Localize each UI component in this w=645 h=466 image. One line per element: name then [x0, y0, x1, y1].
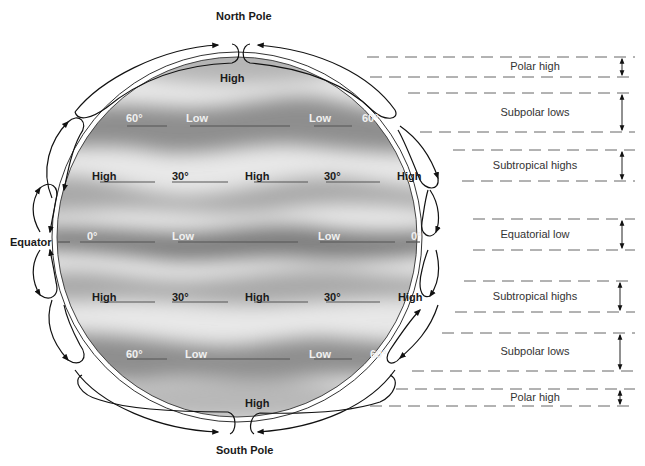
high-30n-mid: High — [245, 170, 269, 182]
belt-extent-arrows — [620, 59, 622, 404]
pressure-belts-diagram: North Pole South Pole Equator High High … — [0, 0, 645, 466]
lat-30s-2: 30° — [324, 291, 341, 303]
high-30n-left: High — [92, 170, 116, 182]
north-pole-label: North Pole — [216, 10, 272, 22]
low-eq-2: Low — [318, 230, 340, 242]
low-60n-1: Low — [186, 112, 208, 124]
lat-60n-right: 60° — [362, 112, 379, 124]
south-polar-high-label: High — [245, 397, 269, 409]
low-60s-1: Low — [185, 348, 207, 360]
low-eq-1: Low — [172, 230, 194, 242]
high-30s-mid: High — [245, 291, 269, 303]
lat-60n-left: 60° — [126, 112, 143, 124]
belt-subpolar-lows-north: Subpolar lows — [460, 106, 610, 118]
lat-30n-2: 30° — [324, 170, 341, 182]
lat-60s-left: 60° — [126, 348, 143, 360]
north-polar-high-label: High — [220, 72, 244, 84]
low-60n-2: Low — [309, 112, 331, 124]
belt-subtropical-highs-north: Subtropical highs — [460, 159, 610, 171]
belt-polar-high-south: Polar high — [460, 391, 610, 403]
lat-0-left: 0° — [87, 230, 98, 242]
globe — [40, 40, 440, 430]
high-30s-left: High — [92, 291, 116, 303]
belt-polar-high-north: Polar high — [460, 60, 610, 72]
lat-60s-right: 60° — [370, 348, 387, 360]
low-60s-2: Low — [309, 348, 331, 360]
lat-0-right: 0° — [411, 230, 422, 242]
high-30s-right: High — [398, 291, 422, 303]
belt-subtropical-highs-south: Subtropical highs — [460, 290, 610, 302]
belt-subpolar-lows-south: Subpolar lows — [460, 345, 610, 357]
lat-30s-1: 30° — [172, 291, 189, 303]
high-30n-right: High — [397, 170, 421, 182]
belt-equatorial-low: Equatorial low — [460, 228, 610, 240]
south-pole-label: South Pole — [216, 444, 273, 456]
equator-label: Equator — [10, 236, 52, 248]
lat-30n-1: 30° — [172, 170, 189, 182]
